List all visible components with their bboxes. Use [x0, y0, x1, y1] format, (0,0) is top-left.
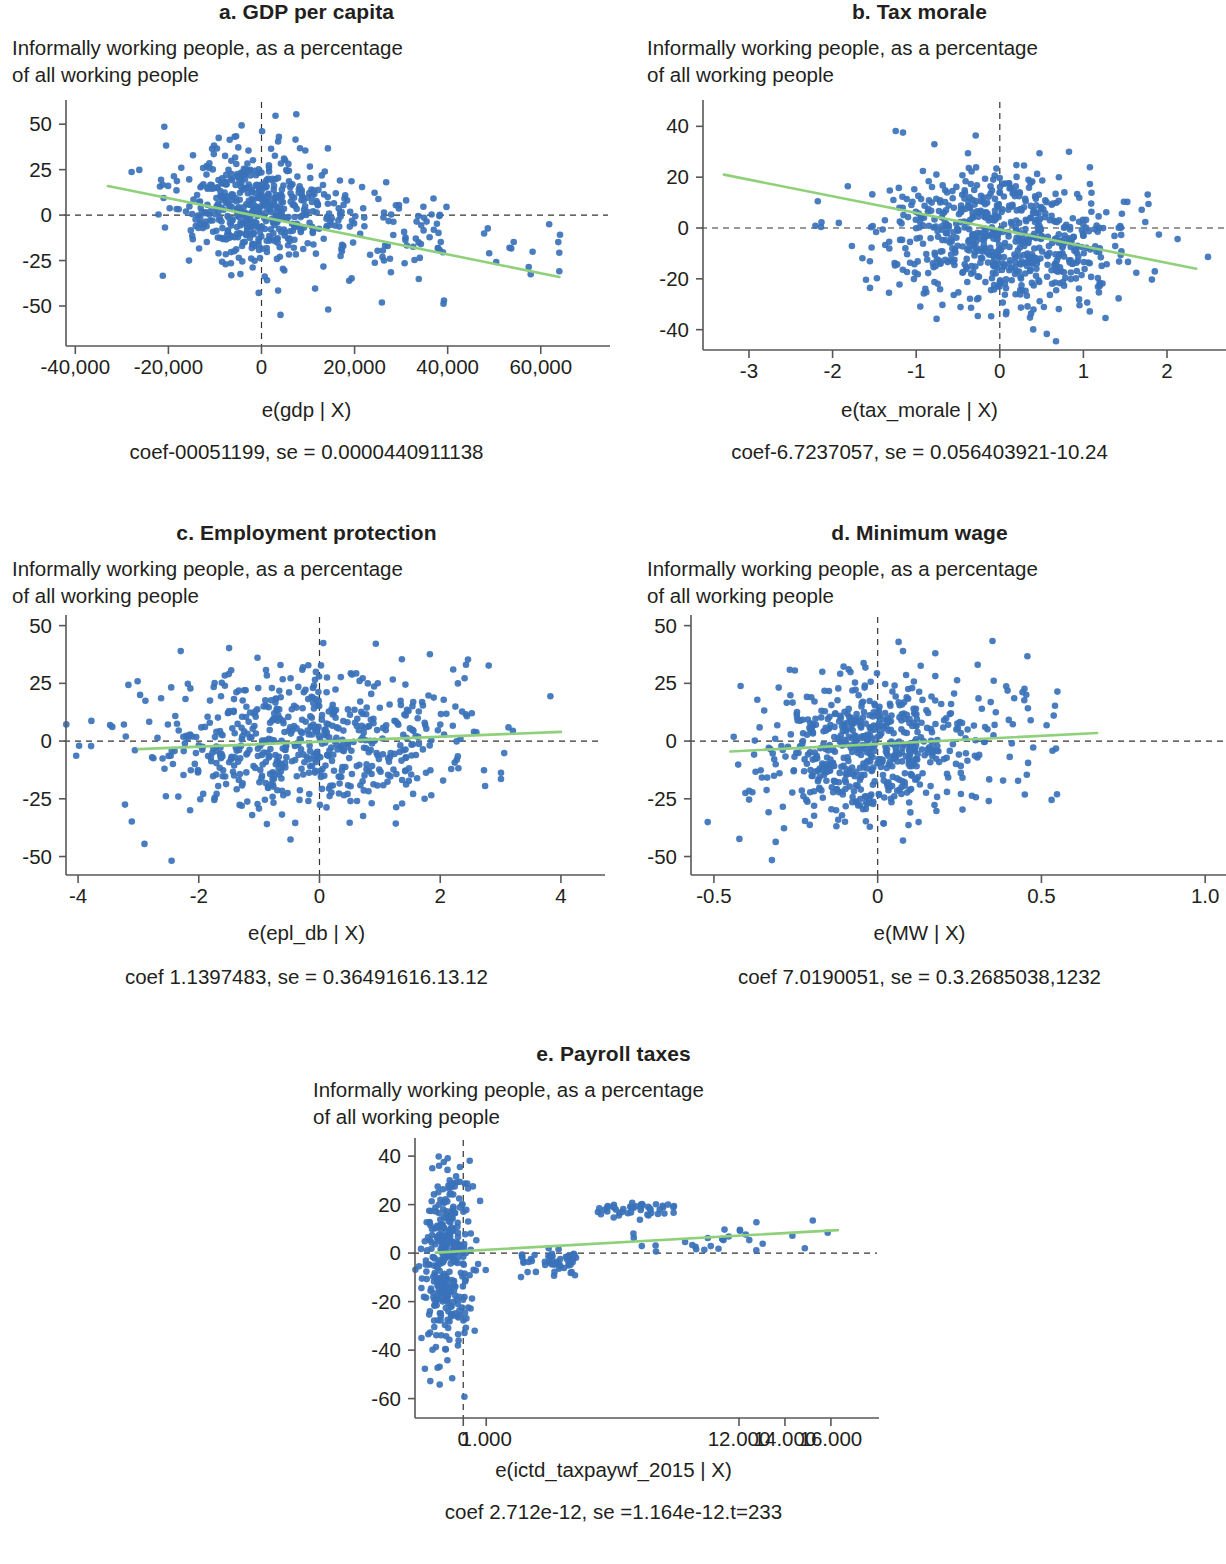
svg-text:60,000: 60,000 — [509, 355, 572, 378]
svg-text:-0.5: -0.5 — [696, 884, 731, 907]
panel-b-coef: coef-6.7237057, se = 0.056403921-10.24 — [613, 440, 1226, 464]
svg-text:1.000: 1.000 — [461, 1427, 512, 1450]
svg-text:-50: -50 — [22, 294, 52, 317]
svg-text:-20: -20 — [659, 267, 689, 290]
panel-c-coef: coef 1.1397483, se = 0.36491616.13.12 — [0, 965, 613, 989]
svg-text:50: 50 — [29, 112, 52, 135]
svg-text:0: 0 — [678, 216, 689, 239]
svg-text:1: 1 — [1078, 359, 1089, 382]
panel-a-plot: -50-2502550-40,000-20,000020,00040,00060… — [0, 88, 613, 388]
svg-text:25: 25 — [29, 158, 52, 181]
svg-text:20,000: 20,000 — [323, 355, 386, 378]
panel-d-subtitle-line1: Informally working people, as a percenta… — [647, 555, 1226, 582]
panel-b-title: b. Tax morale — [613, 0, 1226, 24]
svg-text:0: 0 — [994, 359, 1005, 382]
svg-text:-60: -60 — [371, 1387, 401, 1410]
panel-d-subtitle-line2: of all working people — [647, 582, 1226, 609]
panel-c-title: c. Employment protection — [0, 521, 613, 545]
svg-text:-2: -2 — [190, 884, 208, 907]
panel-d-subtitle: Informally working people, as a percenta… — [647, 555, 1226, 609]
svg-text:2: 2 — [435, 884, 446, 907]
svg-text:0: 0 — [256, 355, 267, 378]
svg-text:20: 20 — [378, 1193, 401, 1216]
svg-text:-25: -25 — [22, 249, 52, 272]
svg-text:40: 40 — [666, 114, 689, 137]
panel-d-coef: coef 7.0190051, se = 0.3.2685038,1232 — [613, 965, 1226, 989]
svg-text:0: 0 — [872, 884, 883, 907]
svg-text:-2: -2 — [823, 359, 841, 382]
panel-e-subtitle-line1: Informally working people, as a percenta… — [313, 1076, 920, 1103]
svg-text:-25: -25 — [22, 787, 52, 810]
svg-text:0.5: 0.5 — [1027, 884, 1056, 907]
panel-a-subtitle: Informally working people, as a percenta… — [12, 34, 613, 88]
panel-d: d. Minimum wage Informally working peopl… — [613, 521, 1226, 989]
panel-c-subtitle-line2: of all working people — [12, 582, 613, 609]
panel-d-plot: -50-2502550-0.500.51.0 — [613, 609, 1226, 909]
panel-e: e. Payroll taxes Informally working peop… — [307, 1042, 920, 1524]
svg-text:0: 0 — [666, 729, 677, 752]
panel-c-subtitle: Informally working people, as a percenta… — [12, 555, 613, 609]
panel-a-subtitle-line2: of all working people — [12, 61, 613, 88]
panel-e-title: e. Payroll taxes — [307, 1042, 920, 1066]
svg-text:20: 20 — [666, 165, 689, 188]
svg-text:0: 0 — [41, 729, 52, 752]
svg-text:-50: -50 — [647, 845, 677, 868]
svg-text:0: 0 — [41, 203, 52, 226]
svg-text:-25: -25 — [647, 787, 677, 810]
svg-text:0: 0 — [390, 1241, 401, 1264]
svg-text:-40: -40 — [659, 318, 689, 341]
svg-text:-20: -20 — [371, 1290, 401, 1313]
panel-b-plot: -40-2002040-3-2-1012 — [613, 88, 1226, 388]
svg-text:16.000: 16.000 — [800, 1427, 863, 1450]
panel-b-subtitle: Informally working people, as a percenta… — [647, 34, 1226, 88]
svg-text:-4: -4 — [69, 884, 87, 907]
svg-text:0: 0 — [314, 884, 325, 907]
panel-a-coef: coef-00051199, se = 0.0000440911138 — [0, 440, 613, 464]
svg-text:-20,000: -20,000 — [134, 355, 204, 378]
panel-b: b. Tax morale Informally working people,… — [613, 0, 1226, 464]
panel-a-subtitle-line1: Informally working people, as a percenta… — [12, 34, 613, 61]
panel-a: a. GDP per capita Informally working peo… — [0, 0, 613, 464]
svg-text:25: 25 — [654, 671, 677, 694]
panel-e-subtitle: Informally working people, as a percenta… — [313, 1076, 920, 1130]
svg-text:-1: -1 — [907, 359, 925, 382]
panel-e-subtitle-line2: of all working people — [313, 1103, 920, 1130]
panel-c: c. Employment protection Informally work… — [0, 521, 613, 989]
svg-text:40,000: 40,000 — [416, 355, 479, 378]
panel-d-xlabel: e(MW | X) — [613, 921, 1226, 945]
panel-e-xlabel: e(ictd_taxpaywf_2015 | X) — [307, 1458, 920, 1482]
panel-b-xlabel: e(tax_morale | X) — [613, 398, 1226, 422]
svg-text:-40: -40 — [371, 1338, 401, 1361]
panel-e-plot: -60-40-200204001.00012.00014.00016.000 — [307, 1130, 920, 1448]
panel-b-subtitle-line2: of all working people — [647, 61, 1226, 88]
svg-text:25: 25 — [29, 671, 52, 694]
svg-text:50: 50 — [29, 614, 52, 637]
panel-a-title: a. GDP per capita — [0, 0, 613, 24]
svg-text:2: 2 — [1161, 359, 1172, 382]
panel-c-subtitle-line1: Informally working people, as a percenta… — [12, 555, 613, 582]
panel-d-title: d. Minimum wage — [613, 521, 1226, 545]
svg-text:50: 50 — [654, 614, 677, 637]
svg-text:40: 40 — [378, 1144, 401, 1167]
figure-grid: a. GDP per capita Informally working peo… — [0, 0, 1226, 1564]
svg-text:1.0: 1.0 — [1191, 884, 1220, 907]
panel-a-xlabel: e(gdp | X) — [0, 398, 613, 422]
svg-text:4: 4 — [555, 884, 566, 907]
panel-e-coef: coef 2.712e-12, se =1.164e-12.t=233 — [307, 1500, 920, 1524]
panel-c-xlabel: e(epl_db | X) — [0, 921, 613, 945]
svg-text:-50: -50 — [22, 845, 52, 868]
svg-text:-3: -3 — [740, 359, 758, 382]
panel-b-subtitle-line1: Informally working people, as a percenta… — [647, 34, 1226, 61]
svg-text:-40,000: -40,000 — [41, 355, 111, 378]
panel-c-plot: -50-2502550-4-2024 — [0, 609, 613, 909]
